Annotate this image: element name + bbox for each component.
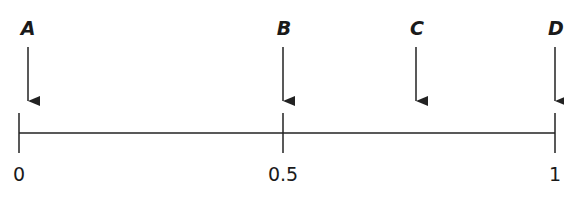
tick-label-0.5: 0.5 xyxy=(268,165,298,184)
point-label-c: C xyxy=(410,19,424,38)
point-label-b: B xyxy=(277,19,291,38)
tick-label-1: 1 xyxy=(549,165,561,184)
point-label-a: A xyxy=(21,19,36,38)
point-label-d: D xyxy=(548,19,564,38)
tick-label-0: 0 xyxy=(13,165,25,184)
